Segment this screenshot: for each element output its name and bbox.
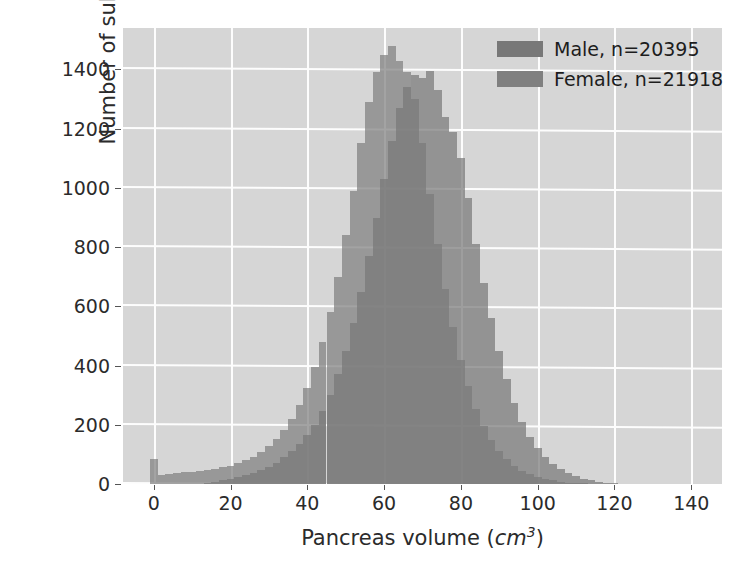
histogram-bar <box>534 448 542 484</box>
x-axis-tick <box>538 485 539 490</box>
histogram-bar <box>426 71 434 484</box>
x-axis-tick-label: 100 <box>520 494 556 513</box>
histogram-bar <box>388 141 396 484</box>
histogram-bar <box>373 218 381 484</box>
histogram-bar <box>557 469 565 484</box>
histogram-bar <box>296 444 304 484</box>
histogram-bar <box>419 78 427 484</box>
x-axis-unit: cm <box>495 526 527 550</box>
histogram-bar <box>595 482 603 484</box>
histogram-bar <box>196 471 204 484</box>
histogram-bar <box>165 474 173 484</box>
y-axis-tick <box>115 484 121 485</box>
histogram-bar <box>449 132 457 484</box>
y-axis-tick-label: 600 <box>74 297 110 316</box>
x-axis-tick-label: 20 <box>218 494 242 513</box>
histogram-bar <box>472 244 480 484</box>
histogram-bar <box>204 483 212 484</box>
x-axis-tick-label: 120 <box>596 494 632 513</box>
histogram-bar <box>434 90 442 484</box>
y-axis-tick-label: 0 <box>98 475 110 494</box>
histogram-bar <box>265 467 273 484</box>
histogram-bar <box>580 479 588 484</box>
gridline-vertical <box>538 28 540 484</box>
histogram-bar <box>542 457 550 484</box>
x-axis-tick <box>307 485 308 490</box>
histogram-bar <box>158 475 166 484</box>
histogram-bar <box>480 283 488 484</box>
histogram-bar <box>311 425 319 484</box>
legend-label-male: Male, n=20395 <box>554 38 700 60</box>
x-axis-tick <box>691 485 692 490</box>
x-axis-label-tail: ) <box>536 526 544 550</box>
plot-area <box>123 28 722 484</box>
histogram-bar <box>603 483 611 484</box>
y-axis-tick <box>115 425 121 426</box>
x-axis-tick-label: 0 <box>148 494 160 513</box>
figure: 020406080100120140 020040060080010001200… <box>0 0 745 566</box>
histogram-bar <box>457 158 465 484</box>
histogram-bar <box>181 472 189 484</box>
histogram-bar <box>280 457 288 484</box>
histogram-bar <box>227 479 235 484</box>
histogram-bar <box>211 482 219 484</box>
histogram-bar <box>526 437 534 484</box>
histogram-bar <box>511 403 519 484</box>
histogram-bar <box>150 459 158 484</box>
histogram-bar <box>273 463 281 484</box>
histogram-bar <box>611 483 619 484</box>
histogram-bar <box>288 451 296 484</box>
histogram-bar <box>572 476 580 484</box>
y-axis-label: Number of subjects <box>94 0 122 270</box>
histogram-bar <box>257 470 265 484</box>
x-axis-tick <box>461 485 462 490</box>
gridline-vertical <box>614 28 616 484</box>
histogram-bar <box>403 87 411 484</box>
x-axis-label: Pancreas volume (cm3) <box>123 524 722 550</box>
y-axis-tick-label: 200 <box>74 415 110 434</box>
histogram-bar <box>503 379 511 484</box>
legend-swatch-female <box>497 71 543 87</box>
histogram-bar <box>219 480 227 484</box>
x-axis-tick-label: 40 <box>295 494 319 513</box>
histogram-bar <box>588 480 596 484</box>
legend-label-female: Female, n=21918 <box>554 68 723 90</box>
histogram-bar <box>549 464 557 484</box>
histogram-bar <box>488 318 496 484</box>
histogram-bar <box>234 477 242 484</box>
legend: Male, n=20395 Female, n=21918 <box>497 36 723 92</box>
x-axis-tick-label: 60 <box>372 494 396 513</box>
x-axis-tick-label: 140 <box>673 494 709 513</box>
histogram-bar <box>303 435 311 484</box>
histogram-bar <box>319 411 327 484</box>
legend-item-male: Male, n=20395 <box>497 36 723 62</box>
histogram-bar <box>250 473 258 484</box>
x-axis-tick <box>614 485 615 490</box>
histogram-bar <box>334 374 342 484</box>
y-axis-tick <box>115 366 121 367</box>
x-axis-unit-exponent: 3 <box>527 524 536 540</box>
histogram-bar <box>357 292 365 484</box>
y-axis-tick-label: 400 <box>74 356 110 375</box>
y-axis-label-wrapper: Number of subjects <box>0 28 28 484</box>
x-axis-tick-label: 80 <box>449 494 473 513</box>
histogram-bar <box>188 472 196 484</box>
x-axis-label-text: Pancreas volume ( <box>301 526 495 550</box>
legend-item-female: Female, n=21918 <box>497 66 723 92</box>
histogram-bar <box>342 351 350 484</box>
histogram-bar <box>411 75 419 484</box>
gridline-vertical <box>691 28 693 484</box>
histogram-bar <box>442 117 450 484</box>
histogram-bar <box>242 475 250 484</box>
histogram-bar <box>396 108 404 484</box>
x-axis-tick <box>154 485 155 490</box>
y-axis-tick <box>115 306 121 307</box>
histogram-bar <box>173 473 181 484</box>
gridline-vertical <box>154 28 156 484</box>
x-axis-tick <box>384 485 385 490</box>
histogram-bar <box>350 323 358 484</box>
histogram-bar <box>327 395 335 484</box>
histogram-bar <box>380 179 388 484</box>
histogram-bar <box>365 256 373 484</box>
histogram-bar <box>465 198 473 484</box>
